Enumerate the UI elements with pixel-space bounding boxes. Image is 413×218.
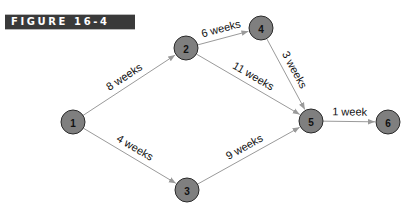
edge-arrow-5-6 (323, 121, 375, 122)
node-4: 4 (249, 16, 273, 40)
edge-arrow-1-2 (83, 55, 175, 115)
node-label: 4 (258, 24, 264, 35)
edge-label-3-5: 9 weeks (224, 131, 266, 161)
edge-label-1-2: 8 weeks (104, 60, 145, 92)
node-label: 3 (184, 186, 190, 197)
node-label: 1 (70, 118, 76, 129)
node-5: 5 (299, 109, 323, 133)
edge-label-4-5: 3 weeks (280, 49, 310, 91)
node-label: 5 (308, 117, 314, 128)
node-1: 1 (61, 110, 85, 134)
node-2: 2 (174, 36, 198, 60)
node-label: 2 (183, 44, 189, 55)
edge-label-1-3: 4 weeks (115, 132, 156, 163)
node-3: 3 (175, 178, 199, 202)
edge-arrow-2-5 (196, 54, 299, 114)
node-label: 6 (385, 118, 391, 129)
network-diagram: 8 weeks4 weeks6 weeks11 weeks3 weeks9 we… (0, 0, 413, 218)
edge-label-2-4: 6 weeks (200, 17, 243, 39)
edge-arrow-3-5 (197, 127, 299, 184)
edge-label-5-6: 1 week (332, 105, 368, 117)
node-6: 6 (376, 110, 400, 134)
edge-labels: 8 weeks4 weeks6 weeks11 weeks3 weeks9 we… (104, 17, 368, 163)
